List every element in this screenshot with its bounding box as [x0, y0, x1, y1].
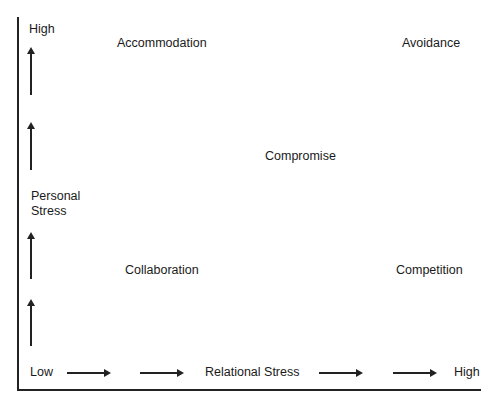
- x-axis-title: Relational Stress: [205, 365, 300, 380]
- arrow-up-icon: [30, 53, 32, 95]
- y-axis-line: [17, 17, 19, 390]
- quadrant-accommodation: Accommodation: [117, 36, 207, 51]
- quadrant-compromise: Compromise: [265, 149, 336, 164]
- arrow-right-icon: [319, 372, 357, 374]
- y-axis-title-line2: Stress: [31, 204, 66, 219]
- arrow-up-icon: [30, 128, 32, 170]
- arrow-up-icon: [30, 305, 32, 346]
- quadrant-collaboration: Collaboration: [125, 263, 199, 278]
- y-axis-high-label: High: [29, 22, 55, 37]
- x-axis-high-label: High: [454, 365, 480, 380]
- x-axis-low-label: Low: [30, 365, 53, 380]
- quadrant-competition: Competition: [396, 263, 463, 278]
- arrow-right-icon: [67, 372, 105, 374]
- arrow-up-icon: [30, 238, 32, 279]
- x-axis-line: [17, 389, 481, 391]
- y-axis-title-line1: Personal: [31, 189, 80, 204]
- arrow-right-icon: [140, 372, 178, 374]
- arrow-right-icon: [393, 372, 431, 374]
- quadrant-avoidance: Avoidance: [402, 36, 460, 51]
